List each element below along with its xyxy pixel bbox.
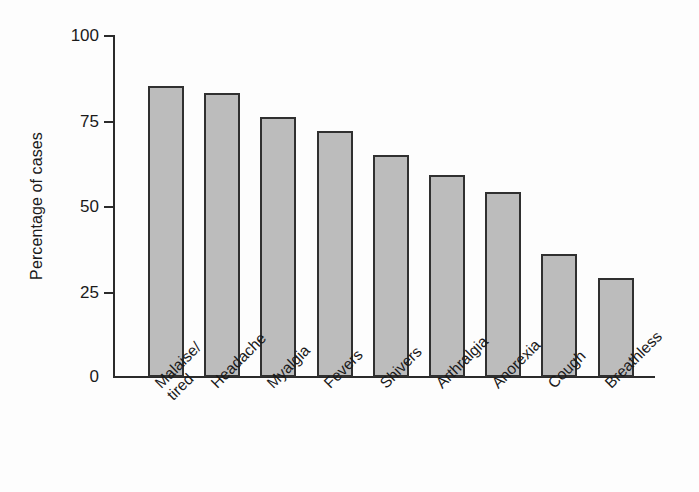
y-axis-title: Percentage of cases [22,35,52,377]
bar [148,86,184,377]
y-axis-line [113,35,115,378]
bar-chart-figure: Percentage of cases 100 75 50 25 0 Malai… [0,0,699,492]
y-axis-tick-label: 0 [90,367,99,387]
y-axis-tick: 25 [104,292,113,294]
bar [485,192,521,377]
x-axis-labels: Malaise/tired Headache Myalgia Fevers Sh… [113,380,699,492]
bar [204,93,240,377]
y-axis-tick: 75 [104,121,113,123]
plot-area: 100 75 50 25 0 [113,35,655,377]
bar [317,131,353,377]
y-axis-tick: 0 [104,376,113,378]
y-axis-tick-label: 25 [80,283,99,303]
y-axis-tick-label: 100 [71,26,99,46]
y-axis-tick-label: 75 [80,112,99,132]
y-axis-tick: 100 [104,35,113,37]
bar [429,175,465,377]
bar [373,155,409,377]
y-axis-tick-label: 50 [80,197,99,217]
y-axis-tick: 50 [104,206,113,208]
